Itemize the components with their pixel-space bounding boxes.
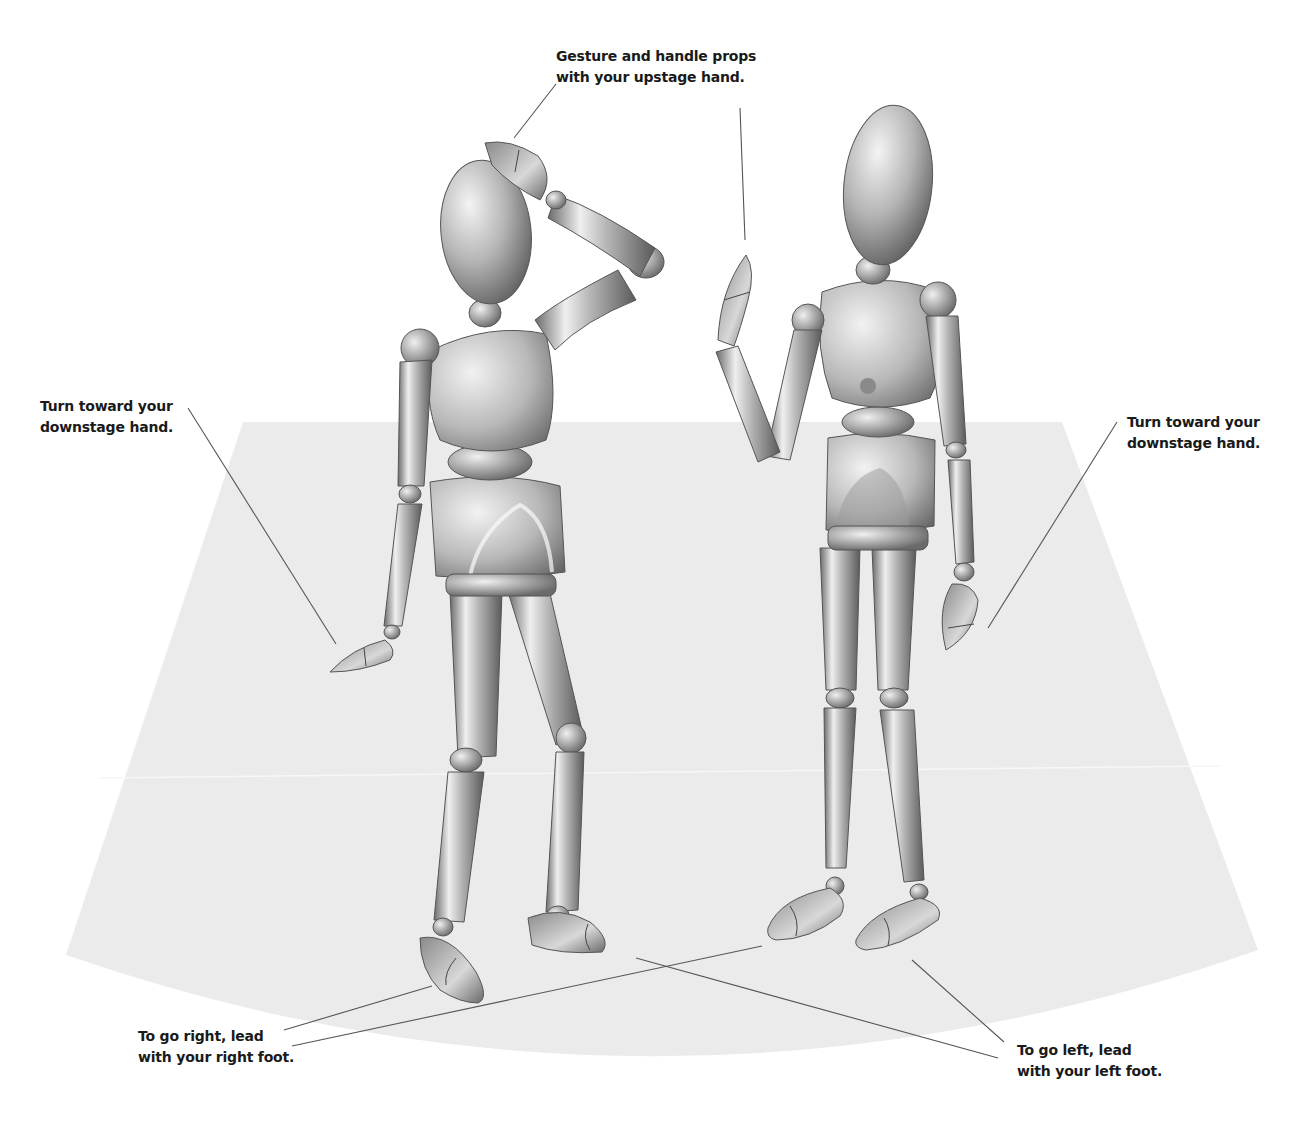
leader-gesture-left xyxy=(514,84,556,138)
label-line: with your left foot. xyxy=(1017,1061,1162,1082)
stage-diagram xyxy=(0,0,1306,1121)
label-line: Turn toward your xyxy=(1127,412,1260,433)
label-turn-toward-downstage-left: Turn toward your downstage hand. xyxy=(40,396,173,438)
label-go-right: To go right, lead with your right foot. xyxy=(138,1026,294,1068)
leader-gesture-right xyxy=(740,108,745,240)
label-line: Turn toward your xyxy=(40,396,173,417)
label-gesture-props: Gesture and handle props with your upsta… xyxy=(556,46,756,88)
label-turn-toward-downstage-right: Turn toward your downstage hand. xyxy=(1127,412,1260,454)
label-line: Gesture and handle props xyxy=(556,46,756,67)
right-mannequin-head xyxy=(836,101,940,269)
right-mannequin-hand-upstage xyxy=(718,255,752,346)
stage-floor xyxy=(66,422,1258,1056)
label-go-left: To go left, lead with your left foot. xyxy=(1017,1040,1162,1082)
label-line: with your right foot. xyxy=(138,1047,294,1068)
label-line: To go left, lead xyxy=(1017,1040,1162,1061)
label-line: To go right, lead xyxy=(138,1026,294,1047)
left-mannequin-hips xyxy=(430,477,565,578)
label-line: with your upstage hand. xyxy=(556,67,756,88)
label-line: downstage hand. xyxy=(1127,433,1260,454)
left-mannequin-chest xyxy=(428,330,553,451)
label-line: downstage hand. xyxy=(40,417,173,438)
